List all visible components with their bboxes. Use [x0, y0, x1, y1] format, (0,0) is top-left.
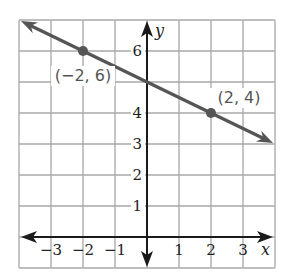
y-tick-label: 3	[132, 135, 142, 153]
x-tick-label: 3	[238, 241, 248, 259]
point-label: (−2, 6)	[55, 66, 111, 85]
x-tick-label: −3	[40, 241, 62, 259]
data-point	[78, 46, 88, 56]
x-tick-label: 1	[174, 241, 184, 259]
y-tick-label: 1	[132, 197, 142, 215]
y-axis-label: y	[154, 21, 165, 40]
coordinate-plane: −3−2−112312346 (−2, 6)(2, 4) x y	[0, 0, 289, 279]
x-axis-label: x	[261, 240, 270, 259]
point-label: (2, 4)	[217, 88, 260, 107]
y-tick-label: 4	[132, 104, 142, 122]
data-point	[206, 108, 216, 118]
y-tick-label: 2	[132, 166, 142, 184]
x-tick-label: 2	[206, 241, 216, 259]
x-tick-label: −2	[72, 241, 94, 259]
x-tick-label: −1	[104, 241, 126, 259]
y-tick-label: 6	[132, 42, 142, 60]
